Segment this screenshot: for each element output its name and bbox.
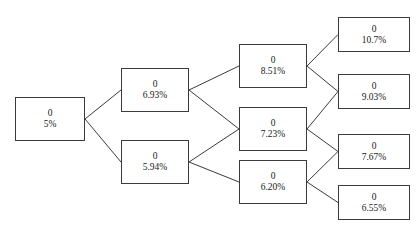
tree-node-n3a[interactable]: 010.7% xyxy=(338,17,410,52)
node-percentage: 6.93% xyxy=(143,90,168,101)
node-value: 0 xyxy=(48,108,53,119)
node-value: 0 xyxy=(271,171,276,182)
node-value: 0 xyxy=(372,24,377,35)
node-value: 0 xyxy=(153,151,158,162)
node-percentage: 6.20% xyxy=(261,182,286,193)
node-percentage: 10.7% xyxy=(362,35,387,46)
tree-edge xyxy=(307,129,338,152)
node-percentage: 5% xyxy=(44,119,57,130)
tree-node-n1b[interactable]: 05.94% xyxy=(121,140,189,184)
node-value: 0 xyxy=(271,55,276,66)
node-percentage: 7.23% xyxy=(261,129,286,140)
node-value: 0 xyxy=(372,81,377,92)
node-value: 0 xyxy=(153,79,158,90)
node-value: 0 xyxy=(271,118,276,129)
tree-edge xyxy=(85,90,121,119)
node-percentage: 9.03% xyxy=(362,92,387,103)
tree-edge xyxy=(189,90,239,129)
node-percentage: 6.55% xyxy=(362,203,387,214)
tree-edge xyxy=(307,66,338,92)
tree-node-n0[interactable]: 05% xyxy=(15,97,85,141)
node-value: 0 xyxy=(372,141,377,152)
node-percentage: 8.51% xyxy=(261,66,286,77)
tree-node-n1a[interactable]: 06.93% xyxy=(121,68,189,112)
tree-node-n3c[interactable]: 07.67% xyxy=(338,134,410,169)
tree-edge xyxy=(189,162,239,182)
tree-node-n3d[interactable]: 06.55% xyxy=(338,185,410,220)
tree-edge xyxy=(307,182,338,203)
tree-edge xyxy=(189,66,239,90)
tree-edge xyxy=(307,92,338,130)
tree-edge xyxy=(307,152,338,183)
node-percentage: 7.67% xyxy=(362,152,387,163)
tree-node-n2c[interactable]: 06.20% xyxy=(239,160,307,204)
tree-edge xyxy=(85,119,121,162)
tree-edge xyxy=(307,35,338,67)
node-percentage: 5.94% xyxy=(143,162,168,173)
tree-node-n2b[interactable]: 07.23% xyxy=(239,107,307,151)
tree-edge xyxy=(189,129,239,162)
binomial-tree-diagram: 05%06.93%05.94%08.51%07.23%06.20%010.7%0… xyxy=(0,0,418,235)
tree-node-n2a[interactable]: 08.51% xyxy=(239,44,307,88)
node-value: 0 xyxy=(372,192,377,203)
tree-node-n3b[interactable]: 09.03% xyxy=(338,74,410,109)
